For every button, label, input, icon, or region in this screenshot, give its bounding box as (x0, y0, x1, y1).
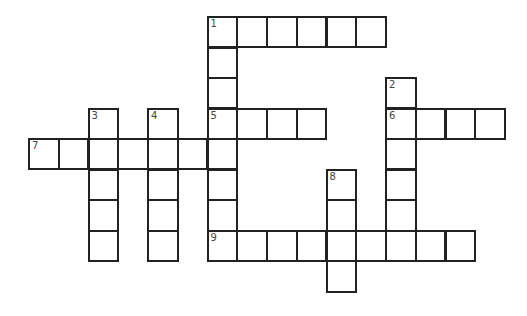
crossword-cell[interactable] (266, 108, 298, 140)
crossword-cell[interactable] (296, 108, 328, 140)
crossword-cell[interactable] (147, 230, 179, 262)
crossword-cell[interactable] (236, 230, 268, 262)
crossword-cell[interactable]: 4 (147, 108, 179, 140)
crossword-cell[interactable] (326, 199, 358, 231)
crossword-cell[interactable] (296, 230, 328, 262)
crossword-cell[interactable] (355, 16, 387, 48)
crossword-cell[interactable]: 8 (326, 169, 358, 201)
crossword-cell[interactable] (326, 260, 358, 292)
clue-number: 9 (211, 232, 217, 244)
crossword-cell[interactable] (147, 199, 179, 231)
clue-number: 8 (330, 171, 336, 183)
clue-number: 3 (92, 110, 98, 122)
crossword-cell[interactable]: 1 (207, 16, 239, 48)
crossword-cell[interactable] (415, 108, 447, 140)
crossword-cell[interactable] (385, 169, 417, 201)
crossword-cell[interactable] (147, 169, 179, 201)
crossword-cell[interactable] (445, 108, 477, 140)
crossword-cell[interactable] (88, 169, 120, 201)
crossword-cell[interactable] (474, 108, 506, 140)
crossword-cell[interactable] (236, 108, 268, 140)
crossword-cell[interactable] (177, 138, 209, 170)
crossword-cell[interactable] (207, 199, 239, 231)
crossword-cell[interactable] (266, 230, 298, 262)
crossword-grid: 159263478 (0, 0, 527, 316)
crossword-cell[interactable] (266, 16, 298, 48)
crossword-cell[interactable] (117, 138, 149, 170)
clue-number: 7 (32, 140, 38, 152)
crossword-cell[interactable] (415, 230, 447, 262)
crossword-cell[interactable] (207, 169, 239, 201)
crossword-cell[interactable]: 7 (28, 138, 60, 170)
crossword-cell[interactable]: 3 (88, 108, 120, 140)
crossword-cell[interactable]: 9 (207, 230, 239, 262)
crossword-cell[interactable] (147, 138, 179, 170)
clue-number: 1 (211, 18, 217, 30)
clue-number: 2 (389, 79, 395, 91)
crossword-cell[interactable]: 5 (207, 108, 239, 140)
crossword-cell[interactable] (445, 230, 477, 262)
clue-number: 4 (151, 110, 157, 122)
crossword-cell[interactable] (207, 77, 239, 109)
crossword-cell[interactable] (88, 138, 120, 170)
clue-number: 6 (389, 110, 395, 122)
crossword-cell[interactable]: 6 (385, 108, 417, 140)
crossword-cell[interactable] (88, 199, 120, 231)
crossword-cell[interactable] (385, 199, 417, 231)
crossword-cell[interactable] (385, 138, 417, 170)
crossword-cell[interactable] (88, 230, 120, 262)
crossword-cell[interactable] (207, 47, 239, 79)
crossword-cell[interactable] (296, 16, 328, 48)
crossword-cell[interactable] (326, 230, 358, 262)
crossword-cell[interactable] (58, 138, 90, 170)
crossword-cell[interactable] (385, 230, 417, 262)
crossword-cell[interactable]: 2 (385, 77, 417, 109)
crossword-cell[interactable] (326, 16, 358, 48)
crossword-cell[interactable] (207, 138, 239, 170)
clue-number: 5 (211, 110, 217, 122)
crossword-cell[interactable] (236, 16, 268, 48)
crossword-cell[interactable] (355, 230, 387, 262)
